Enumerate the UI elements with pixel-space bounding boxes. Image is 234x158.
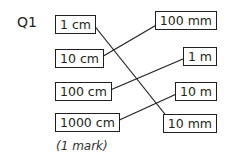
mark-allocation: (1 mark) xyxy=(56,139,108,153)
right-box-1m: 1 m xyxy=(183,47,217,66)
left-box-10cm: 10 cm xyxy=(55,49,104,68)
right-box-100mm: 100 mm xyxy=(155,11,217,30)
right-box-10mm: 10 mm xyxy=(163,114,217,133)
left-box-1000cm: 1000 cm xyxy=(55,113,120,132)
right-box-10m: 10 m xyxy=(175,82,217,101)
left-box-100cm: 100 cm xyxy=(55,82,112,101)
left-box-1cm: 1 cm xyxy=(55,15,96,34)
